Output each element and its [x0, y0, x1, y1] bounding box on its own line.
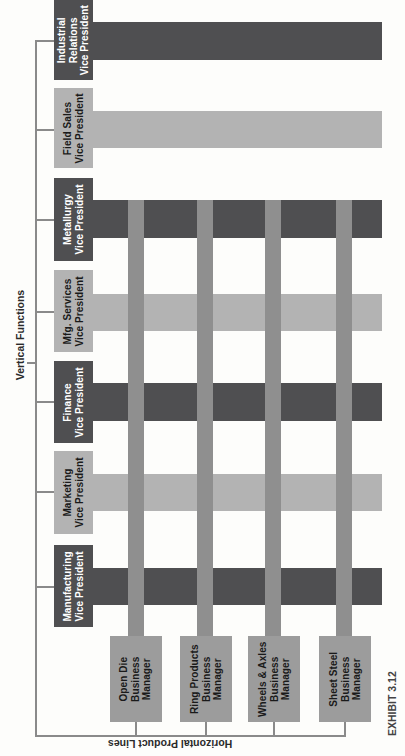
vp-box-mfg-services: Mfg. Services Vice President — [54, 270, 93, 352]
vp-label-line1: Manufacturing — [62, 551, 74, 621]
function-bar-industrial-relations — [93, 22, 382, 60]
bm-label-line3: Manager — [142, 656, 154, 701]
vp-label-line2: Relations — [68, 5, 80, 75]
bm-label-line2: Business — [130, 656, 142, 701]
vp-label-line2: Vice President — [74, 93, 86, 163]
vp-label-line2: Vice President — [74, 551, 86, 621]
vp-label-line3: Vice President — [79, 5, 91, 75]
vp-label-line2: Vice President — [74, 367, 86, 437]
bm-label-line1: Open Die — [119, 656, 131, 701]
vp-label-line1: Mfg. Services — [62, 276, 74, 346]
bm-box-sheet-steel: Sheet Steel Business Manager — [319, 636, 371, 722]
vp-label-line1: Industrial — [56, 5, 68, 75]
bm-label-line2: Business — [268, 641, 280, 717]
vp-box-field-sales: Field Sales Vice President — [54, 88, 93, 168]
bm-label-line1: Wheels & Axles — [257, 641, 269, 717]
connector-ring-products — [205, 722, 207, 736]
product-bar-sheet-steel — [336, 200, 352, 636]
vp-box-marketing: Marketing Vice President — [54, 451, 93, 534]
bm-label-line1: Ring Products — [189, 644, 201, 714]
vp-label-line1: Finance — [62, 367, 74, 437]
connector-open-die — [135, 722, 137, 736]
exhibit-label: EXHIBIT 3.12 — [386, 671, 398, 736]
functions-tree-spine — [35, 40, 37, 737]
connector-industrial-relations — [36, 40, 54, 42]
vp-label-line1: Metallurgy — [62, 184, 74, 254]
bm-box-open-die: Open Die Business Manager — [110, 636, 162, 722]
product-bar-wheels-axles — [265, 200, 281, 636]
vp-box-manufacturing: Manufacturing Vice President — [54, 545, 93, 627]
connector-wheels-axles — [273, 722, 275, 736]
function-bar-field-sales — [93, 111, 382, 148]
bm-box-wheels-axles: Wheels & Axles Business Manager — [248, 636, 300, 722]
bm-label-line2: Business — [339, 651, 351, 706]
bm-label-line3: Manager — [212, 644, 224, 714]
vp-box-finance: Finance Vice President — [54, 361, 93, 443]
bm-label-line2: Business — [200, 644, 212, 714]
bm-box-ring-products: Ring Products Business Manager — [180, 636, 232, 722]
connector-metallurgy — [36, 219, 54, 221]
connector-finance — [36, 401, 54, 403]
vp-label-line1: Marketing — [62, 457, 74, 527]
vertical-functions-root-connector — [27, 362, 36, 364]
horizontal-product-lines-label: Horizontal Product Lines — [108, 738, 232, 750]
vp-label-line2: Vice President — [74, 276, 86, 346]
connector-field-sales — [36, 129, 54, 131]
bm-label-line3: Manager — [351, 651, 363, 706]
product-bar-open-die — [128, 200, 144, 636]
bm-label-line3: Manager — [280, 641, 292, 717]
vp-label-line1: Field Sales — [62, 93, 74, 163]
vp-label-line2: Vice President — [74, 184, 86, 254]
vp-box-industrial-relations: Industrial Relations Vice President — [54, 0, 93, 80]
bm-label-line1: Sheet Steel — [328, 651, 340, 706]
connector-mfg-services — [36, 311, 54, 313]
vp-box-metallurgy: Metallurgy Vice President — [54, 178, 93, 261]
connector-sheet-steel — [344, 722, 346, 736]
product-bar-ring-products — [197, 200, 213, 636]
vertical-functions-label: Vertical Functions — [14, 290, 26, 380]
connector-manufacturing — [36, 586, 54, 588]
vp-label-line2: Vice President — [74, 457, 86, 527]
product-lines-bottom-bus — [36, 735, 346, 737]
connector-marketing — [36, 491, 54, 493]
